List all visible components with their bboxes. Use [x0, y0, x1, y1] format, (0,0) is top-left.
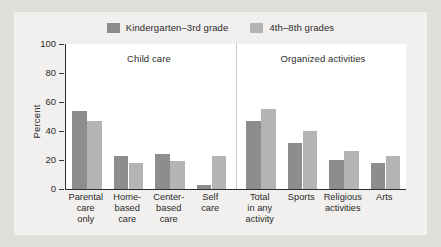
plot-area: Child careOrganized activities — [65, 44, 406, 190]
x-axis-labels: ParentalcareonlyHome-basedcareCenter-bas… — [65, 192, 405, 236]
bar-child-care-self-care-k-3 — [197, 185, 212, 189]
legend-swatch-kindergarten-3rd-grade — [107, 23, 120, 33]
bar-child-care-parental-care-only-k-3 — [72, 111, 87, 189]
bar-child-care-center-based-care-k-3 — [155, 154, 170, 189]
bar-child-care-home-based-care-4-8 — [129, 163, 144, 189]
bar-organized-activities-religious-activities-4-8 — [344, 151, 359, 189]
x-axis-label-total-in-any-activity: Totalin anyactivity — [246, 192, 274, 226]
x-axis-label-self-care: Selfcare — [201, 192, 219, 214]
bar-organized-activities-arts-k-3 — [371, 163, 386, 189]
y-tick-mark-60 — [59, 102, 64, 103]
y-tick-label-60: 60 — [45, 97, 56, 107]
y-tick-label-20: 20 — [45, 155, 56, 165]
bar-child-care-home-based-care-k-3 — [114, 156, 129, 189]
y-tick-label-0: 0 — [51, 184, 56, 194]
y-tick-mark-80 — [59, 73, 64, 74]
y-tick-mark-100 — [59, 44, 64, 45]
panel-title-organized-activities: Organized activities — [281, 53, 366, 64]
bar-organized-activities-religious-activities-k-3 — [329, 160, 344, 189]
x-axis-label-home-based-care: Home-basedcare — [113, 192, 141, 226]
bar-organized-activities-sports-4-8 — [303, 131, 318, 189]
plot-inner: Child careOrganized activities — [66, 44, 406, 189]
y-axis-ticks: 020406080100 — [28, 44, 64, 189]
legend-label-4th-8th-grades: 4th–8th grades — [269, 22, 334, 33]
y-tick-mark-0 — [59, 189, 64, 190]
legend-label-kindergarten-3rd-grade: Kindergarten–3rd grade — [126, 22, 229, 33]
y-tick-label-100: 100 — [40, 39, 56, 49]
bar-organized-activities-total-in-any-activity-k-3 — [246, 121, 261, 189]
x-axis-label-center-based-care: Center-basedcare — [153, 192, 184, 226]
figure-panel: Kindergarten–3rd grade 4th–8th grades Pe… — [14, 12, 427, 235]
x-axis-label-arts: Arts — [376, 192, 393, 203]
y-tick-label-80: 80 — [45, 68, 56, 78]
legend-swatch-4th-8th-grades — [250, 23, 263, 33]
bar-organized-activities-total-in-any-activity-4-8 — [261, 109, 276, 189]
y-tick-mark-20 — [59, 160, 64, 161]
y-tick-label-40: 40 — [45, 126, 56, 136]
panel-divider — [236, 43, 237, 189]
bar-child-care-self-care-4-8 — [212, 156, 227, 189]
x-axis-label-religious-activities: Religiousactivities — [324, 192, 362, 214]
chart-legend: Kindergarten–3rd grade 4th–8th grades — [14, 22, 427, 33]
bar-child-care-parental-care-only-4-8 — [87, 121, 102, 189]
panel-title-child-care: Child care — [127, 53, 171, 64]
legend-item-kindergarten-3rd-grade: Kindergarten–3rd grade — [107, 22, 229, 33]
x-axis-label-sports: Sports — [288, 192, 315, 203]
y-tick-mark-40 — [59, 131, 64, 132]
bar-organized-activities-arts-4-8 — [386, 156, 401, 189]
x-axis-label-parental-care-only: Parentalcareonly — [68, 192, 103, 226]
legend-item-4th-8th-grades: 4th–8th grades — [250, 22, 334, 33]
bar-organized-activities-sports-k-3 — [288, 143, 303, 189]
bar-child-care-center-based-care-4-8 — [170, 161, 185, 189]
